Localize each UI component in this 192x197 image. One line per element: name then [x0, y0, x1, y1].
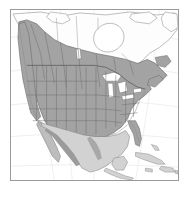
map-frame: [10, 9, 179, 181]
lake-ontario: [134, 88, 142, 93]
jamaica-island: [145, 168, 152, 172]
north-america-map: [11, 10, 178, 180]
puerto-rico-island: [175, 170, 178, 174]
map-figure: [0, 0, 192, 197]
lake-huron: [118, 81, 128, 93]
